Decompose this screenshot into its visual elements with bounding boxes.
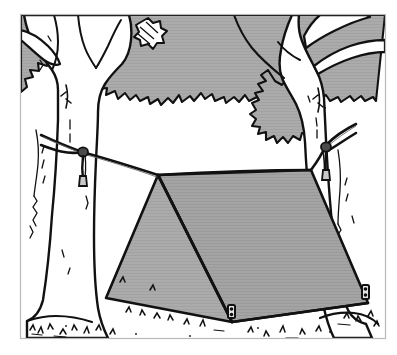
framed-artwork xyxy=(21,15,385,338)
illustration-scene xyxy=(0,0,397,355)
right-tent-stake xyxy=(362,285,369,299)
front-tent-stake xyxy=(228,305,235,318)
illustration-svg xyxy=(0,0,397,355)
